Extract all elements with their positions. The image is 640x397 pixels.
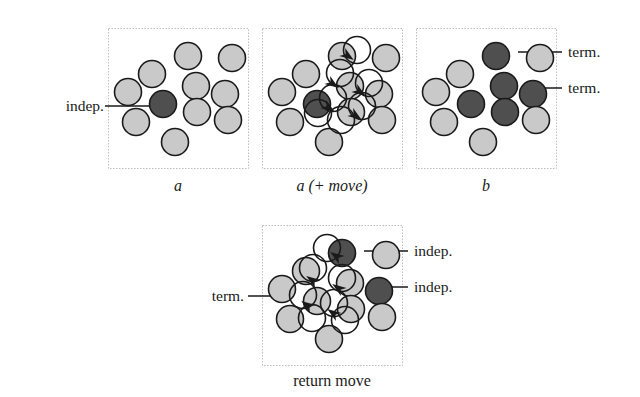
anno-term-ret: term. <box>180 288 244 304</box>
particle-dark <box>491 73 518 100</box>
particle-light <box>527 45 554 72</box>
anno-term-b-2: term. <box>568 80 632 96</box>
particle-light <box>183 73 210 100</box>
particle-dark <box>366 278 393 305</box>
anno-indep-ret-1: indep. <box>414 243 490 259</box>
figure-root: aa (+ move)breturn move indep.term.term.… <box>0 0 640 397</box>
particle-light <box>269 79 296 106</box>
caption-cap-b: b <box>416 178 556 194</box>
particle-light <box>139 61 166 88</box>
particle-light <box>277 109 304 136</box>
caption-cap-return: return move <box>262 373 402 389</box>
particle-dark <box>150 91 177 118</box>
diagram-canvas <box>0 0 640 397</box>
move-circle <box>299 305 326 332</box>
particle-light <box>293 61 320 88</box>
move-circle <box>300 255 327 282</box>
particle-light <box>523 107 550 134</box>
particle-light <box>184 99 211 126</box>
anno-indep-ret-2: indep. <box>414 279 490 295</box>
particle-light <box>162 129 189 156</box>
particle-dark <box>520 81 547 108</box>
particle-light <box>175 43 202 70</box>
particle-light <box>373 45 400 72</box>
caption-cap-a: a <box>108 178 248 194</box>
particle-dark <box>483 43 510 70</box>
particle-light <box>470 129 497 156</box>
particle-light <box>212 81 239 108</box>
move-circle <box>344 37 371 64</box>
particle-light <box>447 61 474 88</box>
particle-dark <box>458 91 485 118</box>
particle-light <box>373 242 400 269</box>
anno-term-b-1: term. <box>568 44 632 60</box>
particle-light <box>115 79 142 106</box>
anno-indep-a: indep. <box>18 98 104 114</box>
particle-light <box>219 45 246 72</box>
particle-light <box>431 109 458 136</box>
caption-cap-a-move: a (+ move) <box>262 178 402 194</box>
particle-light <box>423 79 450 106</box>
particle-light <box>123 109 150 136</box>
particle-dark <box>492 99 519 126</box>
particle-light <box>369 304 396 331</box>
particle-light <box>215 107 242 134</box>
